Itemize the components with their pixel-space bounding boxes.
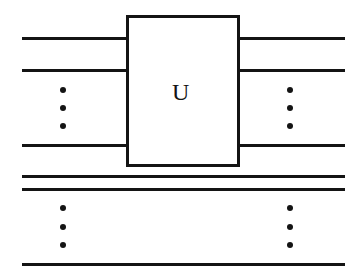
ellipsis-dot bbox=[60, 123, 66, 129]
input-wire-3 bbox=[22, 144, 128, 147]
ellipsis-dot bbox=[287, 105, 293, 111]
ellipsis-dot bbox=[287, 87, 293, 93]
input-wire-1 bbox=[22, 37, 128, 40]
ellipsis-dot bbox=[287, 205, 293, 211]
input-wire-2 bbox=[22, 69, 128, 72]
ellipsis-dot bbox=[60, 87, 66, 93]
vertical-ellipsis-input bbox=[60, 87, 66, 129]
ellipsis-dot bbox=[287, 224, 293, 230]
passthrough-wire-2 bbox=[22, 188, 345, 191]
ellipsis-dot bbox=[287, 123, 293, 129]
ellipsis-dot bbox=[60, 242, 66, 248]
vertical-ellipsis-output bbox=[287, 87, 293, 129]
output-wire-3 bbox=[238, 144, 345, 147]
vertical-ellipsis-lower-left bbox=[60, 205, 66, 248]
ellipsis-dot bbox=[60, 224, 66, 230]
output-wire-2 bbox=[238, 69, 345, 72]
ellipsis-dot bbox=[287, 242, 293, 248]
circuit-diagram-canvas: U bbox=[0, 0, 364, 280]
output-wire-1 bbox=[238, 37, 345, 40]
vertical-ellipsis-lower-right bbox=[287, 205, 293, 248]
gate-label-u: U bbox=[172, 80, 190, 104]
ellipsis-dot bbox=[60, 105, 66, 111]
passthrough-wire-3 bbox=[22, 263, 345, 266]
passthrough-wire-1 bbox=[22, 175, 345, 178]
ellipsis-dot bbox=[60, 205, 66, 211]
